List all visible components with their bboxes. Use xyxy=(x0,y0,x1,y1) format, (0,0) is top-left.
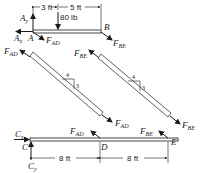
slope-run-be: 4 xyxy=(132,74,135,80)
beam-ab xyxy=(33,30,101,33)
force-ad-label-lower: FAD xyxy=(114,118,129,129)
force-be-label-top: FBE xyxy=(112,38,126,49)
beam-ce xyxy=(30,138,178,141)
reaction-ay-label: Ay xyxy=(19,13,29,24)
force-be-arrow-lower xyxy=(170,116,180,124)
force-ad-arrow-lower xyxy=(102,115,112,122)
dim-8ft-right: 8 ft xyxy=(127,154,139,163)
force-be-label-lower: FBE xyxy=(181,120,195,131)
force-be-label-upper: FBE xyxy=(73,48,87,59)
slope-run-ad: 4 xyxy=(66,72,69,78)
load-label: 80 lb xyxy=(60,13,78,22)
force-be-arrow-top xyxy=(101,32,112,40)
force-ad-label-upper: FAD xyxy=(3,46,18,57)
dim-3ft: 3 ft xyxy=(41,3,53,12)
point-e-label: E xyxy=(170,137,177,147)
dim-8ft-left: 8 ft xyxy=(59,154,71,163)
beam-ab-diagram: 3 ft 5 ft 80 lb Ay Ax A FAD B FBE xyxy=(13,3,126,49)
reaction-cy-label: Cy xyxy=(28,161,37,172)
point-d-label: D xyxy=(100,142,108,152)
point-c-label: C xyxy=(22,142,29,152)
member-be-diagram: FBE FBE 4 3 xyxy=(73,48,195,131)
point-b-label: B xyxy=(104,22,110,32)
member-ad-bar xyxy=(30,52,103,116)
free-body-diagrams: 3 ft 5 ft 80 lb Ay Ax A FAD B FBE FAD FA… xyxy=(0,0,200,173)
point-a-label: A xyxy=(27,33,34,43)
reaction-ax-label: Ax xyxy=(13,33,23,44)
member-ad-diagram: FAD FAD 4 3 xyxy=(3,46,129,129)
force-ad-arrow-upper xyxy=(20,50,30,57)
slope-rise-ad: 3 xyxy=(76,83,79,89)
force-be-arrow-beam xyxy=(159,131,168,138)
force-be-label-beam: FBE xyxy=(139,126,153,137)
slope-rise-be: 3 xyxy=(142,85,145,91)
force-ad-label-top: FAD xyxy=(45,35,60,46)
member-be-bar xyxy=(98,54,171,117)
reaction-cx-label: Cx xyxy=(15,129,24,140)
force-ad-label-beam: FAD xyxy=(69,126,84,137)
force-be-arrow-upper xyxy=(89,50,98,57)
force-ad-arrow-beam xyxy=(91,131,100,138)
dim-5ft: 5 ft xyxy=(70,3,82,12)
beam-ce-diagram: Cx C Cy FAD D FBE E 8 ft 8 ft xyxy=(14,126,178,172)
